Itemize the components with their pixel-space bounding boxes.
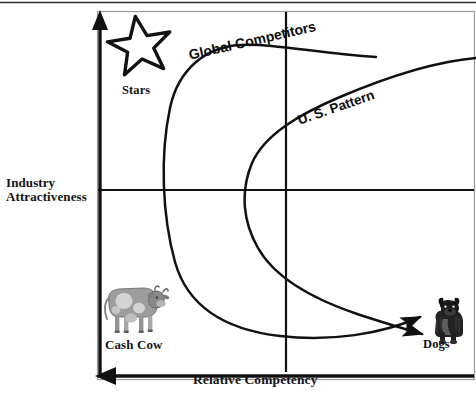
star-icon — [104, 11, 175, 76]
arrow-up-icon — [92, 10, 108, 30]
quadrant-label-stars: Stars — [122, 84, 150, 98]
arrow-left-icon — [95, 367, 116, 385]
quadrant-label-dogs: Dogs — [423, 338, 450, 352]
y-axis-label: Industry Attractiveness — [6, 176, 87, 204]
y-axis — [92, 10, 108, 378]
quadrant-label-cash-cow: Cash Cow — [105, 338, 163, 352]
y-axis-label-line1: Industry — [6, 176, 87, 190]
x-axis-label: Relative Competency — [193, 373, 318, 388]
diagram-canvas: Industry Attractiveness Relative Compete… — [0, 0, 476, 396]
global-competitors-curve — [164, 45, 420, 338]
cow-icon — [105, 286, 170, 333]
y-axis-label-line2: Attractiveness — [6, 190, 87, 204]
